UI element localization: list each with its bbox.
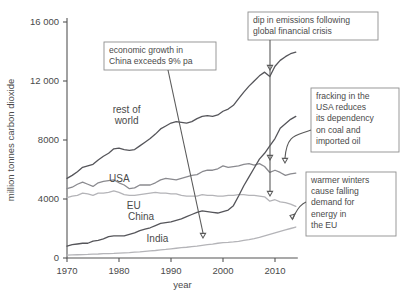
series-label-USA: USA (109, 173, 130, 184)
arrow-head (282, 158, 287, 163)
y-tick-label: 0 (54, 252, 59, 263)
series-label-rest-of-world: rest ofworld (113, 104, 141, 126)
x-tick-labels: 19701980199020002010 (56, 258, 285, 276)
arrow-head (290, 214, 295, 219)
series-line-EU (67, 191, 296, 206)
leader-line-china-growth (168, 70, 203, 233)
series-line-USA (67, 164, 296, 189)
series-label-India: India (147, 233, 169, 244)
y-tick-labels: 04000800012 00016 000 (30, 16, 67, 263)
series-line-rest-of-world (67, 52, 296, 178)
y-tick-label: 8000 (38, 134, 59, 145)
annotation-text-china-growth: economic growth inChina exceeds 9% pa (109, 45, 193, 66)
x-tick-label: 2010 (264, 265, 285, 276)
y-tick-label: 4000 (38, 193, 59, 204)
y-tick-label: 16 000 (30, 16, 59, 27)
arrow-head (267, 191, 272, 196)
arrow-head (200, 233, 205, 238)
series-label-EU: EU (127, 200, 141, 211)
y-axis-title: million tonnes carbon dioxide (5, 79, 16, 202)
series-lines (67, 52, 296, 255)
series-label-China: China (128, 211, 155, 222)
x-tick-label: 1990 (160, 265, 181, 276)
leader-line-usa-fracking (285, 130, 311, 158)
x-tick-label: 1980 (108, 265, 129, 276)
chart-canvas: 04000800012 00016 000 197019801990200020… (0, 0, 405, 302)
emissions-line-chart: 04000800012 00016 000 197019801990200020… (0, 0, 405, 302)
leader-line-eu-warm-winters (293, 202, 306, 219)
x-axis-title: year (173, 279, 191, 290)
x-tick-label: 2000 (212, 265, 233, 276)
y-tick-label: 12 000 (30, 75, 59, 86)
annotations: economic growth inChina exceeds 9% padip… (104, 12, 399, 238)
x-tick-label: 1970 (56, 265, 77, 276)
series-line-India (67, 227, 296, 255)
